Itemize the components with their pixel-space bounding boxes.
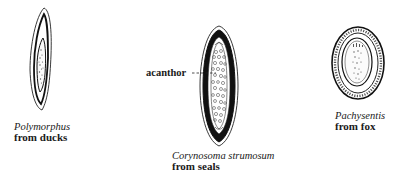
pachysentis-host: from fox bbox=[335, 121, 385, 132]
corynosoma-host: from seals bbox=[172, 161, 274, 172]
corynosoma-caption: Corynosoma strumosum from seals bbox=[172, 150, 274, 172]
pachysentis-egg-drawing bbox=[332, 27, 384, 99]
polymorphus-caption: Polymorphus from ducks bbox=[14, 121, 70, 143]
pachysentis-caption: Pachysentis from fox bbox=[335, 110, 385, 132]
corynosoma-egg-drawing bbox=[192, 26, 238, 146]
polymorphus-egg-drawing bbox=[30, 8, 51, 110]
polymorphus-host: from ducks bbox=[14, 132, 70, 143]
acanthocephalan-eggs-figure: acanthor Polymorphus from ducks Corynoso… bbox=[0, 0, 394, 174]
acanthor-label: acanthor bbox=[146, 67, 186, 78]
egg-illustrations bbox=[0, 0, 394, 174]
